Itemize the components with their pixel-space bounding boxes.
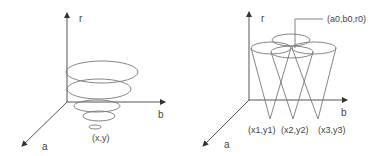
intersection-label: (a0,b0,r0): [327, 14, 366, 24]
left-diagram: r b a (x,y): [22, 13, 165, 152]
right-diagram: r b a (a0,b0,r0) (x1,y1) (x2,y2) (x3,y3): [203, 12, 366, 150]
a-axis: [22, 102, 67, 146]
cone-label-1: (x1,y1): [248, 125, 276, 135]
hough-circle-diagram: r b a (x,y) r b a (a0,b0,r0): [0, 0, 385, 156]
cone-3: [292, 42, 336, 119]
cone-label-3: (x3,y3): [318, 125, 346, 135]
circle-2: [67, 79, 131, 99]
point-label: (x,y): [92, 133, 110, 143]
top-circle: [272, 34, 310, 46]
circle-large: [66, 61, 138, 83]
cone-1: [251, 42, 291, 119]
circle-small: [89, 125, 101, 129]
cone-label-2: (x2,y2): [281, 125, 309, 135]
r-axis-label: r: [261, 13, 265, 24]
b-axis-label: b: [158, 109, 164, 120]
circle-4: [83, 111, 115, 121]
cone-2: [271, 46, 313, 119]
a-axis-label: a: [42, 141, 48, 152]
b-axis-label: b: [341, 107, 347, 118]
a-axis-label: a: [224, 139, 230, 150]
r-axis-label: r: [79, 13, 83, 24]
